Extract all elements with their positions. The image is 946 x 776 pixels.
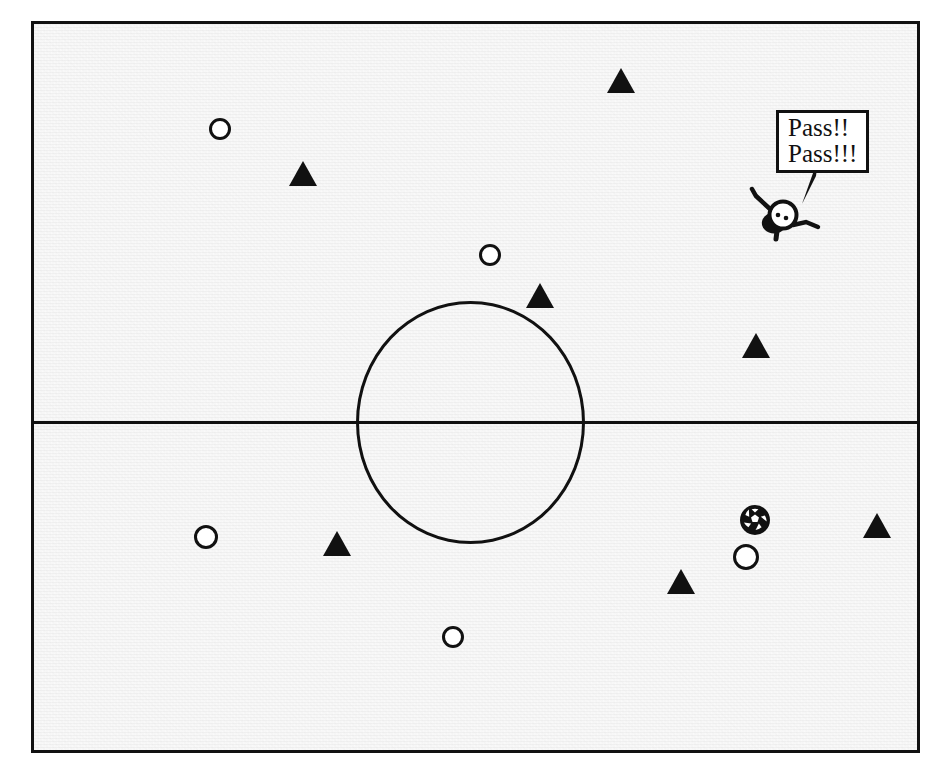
soccer-ball-icon xyxy=(740,505,770,535)
speech-bubble-line-2: Pass!!! xyxy=(788,141,857,167)
player-circle-1[interactable] xyxy=(209,118,231,140)
player-circle-5[interactable] xyxy=(733,544,759,570)
center-circle xyxy=(356,301,585,544)
player-triangle-6[interactable] xyxy=(863,513,891,538)
soccer-field: Pass!! Pass!!! xyxy=(31,21,920,753)
player-circle-2[interactable] xyxy=(479,244,501,266)
player-circle-3[interactable] xyxy=(194,525,218,549)
player-triangle-5[interactable] xyxy=(323,531,351,556)
scene-root: Pass!! Pass!!! xyxy=(0,0,946,776)
player-triangle-1[interactable] xyxy=(607,68,635,93)
player-triangle-2[interactable] xyxy=(289,161,317,186)
soccer-ball[interactable] xyxy=(740,505,770,535)
speech-bubble: Pass!! Pass!!! xyxy=(776,110,869,173)
player-circle-4[interactable] xyxy=(442,626,464,648)
player-triangle-4[interactable] xyxy=(742,333,770,358)
player-triangle-3[interactable] xyxy=(526,283,554,308)
player-triangle-7[interactable] xyxy=(667,569,695,594)
speech-bubble-line-1: Pass!! xyxy=(788,115,857,141)
